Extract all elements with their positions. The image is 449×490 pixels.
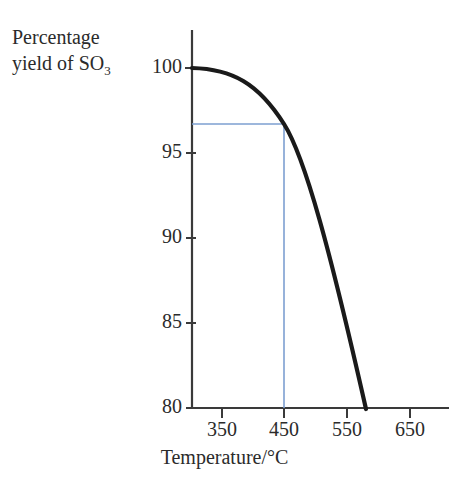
y-axis-title-subscript: 3 [104,63,111,78]
x-tick-label-350: 350 [192,418,252,441]
x-tick-label-550: 550 [317,418,377,441]
reading-guide-lines [192,124,284,408]
y-tick-label-85: 85 [126,310,182,333]
chart-figure: Percentage yield of SO3 100 95 90 85 80 … [0,0,449,490]
yield-curve [192,68,366,409]
x-axis-ticks [222,408,410,418]
y-tick-label-95: 95 [126,140,182,163]
x-axis-title: Temperature/°C [0,446,449,469]
y-tick-label-90: 90 [126,225,182,248]
y-axis-title-line1: Percentage [12,26,100,48]
y-tick-label-80: 80 [126,395,182,418]
y-tick-label-100: 100 [126,55,182,78]
y-axis-title-line2-text: yield of SO [12,52,104,74]
x-tick-label-650: 650 [380,418,440,441]
x-tick-label-450: 450 [254,418,314,441]
